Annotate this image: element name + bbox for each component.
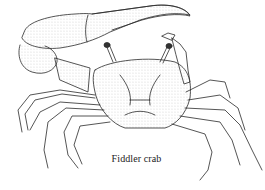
- large-claw: [22, 5, 190, 48]
- carapace: [93, 59, 190, 128]
- caption: Fiddler crab: [0, 153, 265, 164]
- claw-arm: [19, 45, 90, 92]
- caption-text: Fiddler crab: [112, 153, 162, 164]
